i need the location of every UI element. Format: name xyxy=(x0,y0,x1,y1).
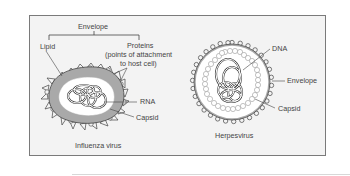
caption-herpesvirus: Herpesvirus xyxy=(215,131,254,140)
label-proteins-detail-1: (points of attachment xyxy=(105,50,172,59)
influenza-virus: Envelope Lipid Proteins (points of attac… xyxy=(40,22,172,150)
label-proteins: Proteins xyxy=(127,41,154,50)
label-capsid-herpes: Capsid xyxy=(278,104,300,113)
divider xyxy=(72,174,350,175)
envelope-bracket xyxy=(49,31,139,40)
label-envelope-herpes: Envelope xyxy=(287,76,317,85)
label-capsid-influenza: Capsid xyxy=(136,113,158,122)
label-proteins-detail-2: to host cell) xyxy=(120,59,157,68)
caption-influenza: Influenza virus xyxy=(75,141,122,150)
label-dna: DNA xyxy=(272,44,287,53)
label-rna: RNA xyxy=(140,97,155,106)
virus-diagram: Envelope Lipid Proteins (points of attac… xyxy=(0,0,350,176)
label-envelope: Envelope xyxy=(78,22,108,31)
label-lipid: Lipid xyxy=(40,42,55,51)
herpesvirus: DNA Envelope Capsid Herpesvirus xyxy=(190,40,317,140)
